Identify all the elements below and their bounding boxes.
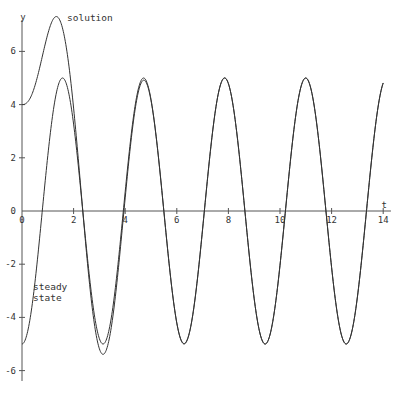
x-origin-label: 0 (19, 215, 24, 225)
steady-state-label-line2: state (33, 292, 62, 303)
y-axis-label: y (20, 12, 26, 22)
chart-canvas: 246810121400-6-4-2246yt solution steady … (0, 0, 406, 409)
y-tick-label: 4 (11, 100, 16, 110)
x-tick-label: 2 (71, 215, 76, 225)
x-tick-label: 6 (174, 215, 179, 225)
x-tick-label: 12 (326, 215, 337, 225)
curves (22, 17, 383, 355)
solution-label: solution (67, 12, 113, 23)
steady-state-label-line1: steady (33, 281, 68, 292)
axes: 246810121400-6-4-2246yt (5, 12, 391, 381)
x-tick-label: 14 (378, 215, 389, 225)
y-tick-label: 6 (11, 46, 16, 56)
solution-curve (22, 17, 383, 355)
x-axis-label: t (381, 200, 386, 210)
y-tick-label: -6 (5, 366, 16, 376)
x-tick-label: 8 (226, 215, 231, 225)
y-origin-label: 0 (11, 206, 16, 216)
y-tick-label: 2 (11, 153, 16, 163)
annotations: solution steady state (33, 12, 113, 303)
y-tick-label: -2 (5, 259, 16, 269)
y-tick-label: -4 (5, 312, 16, 322)
